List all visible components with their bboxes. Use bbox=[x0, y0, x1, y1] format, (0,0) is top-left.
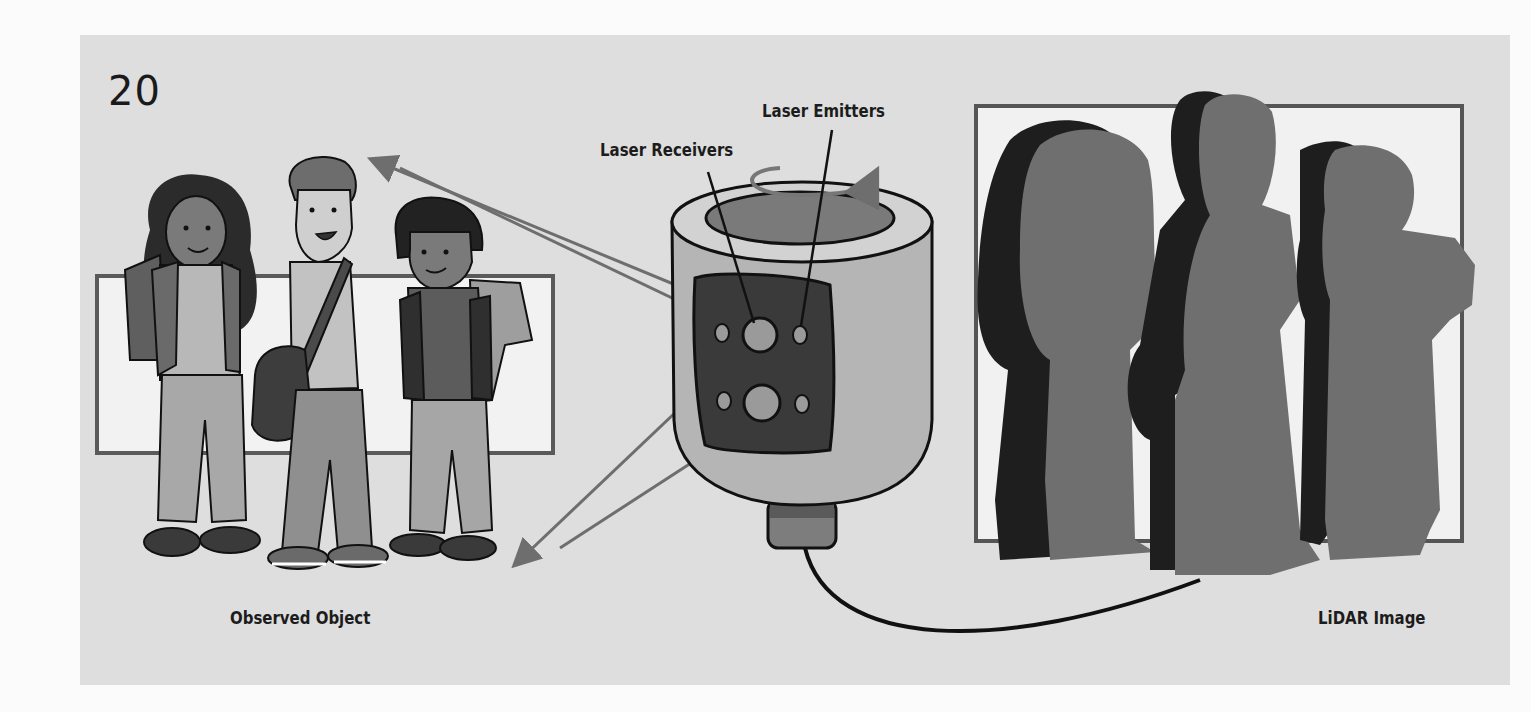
emitter-1 bbox=[715, 324, 729, 342]
sensor-cable bbox=[805, 548, 1200, 631]
emitter-3 bbox=[717, 392, 731, 410]
receiver-lower bbox=[744, 385, 780, 421]
observed-object-group bbox=[97, 157, 553, 569]
label-lidar-image: LiDAR Image bbox=[1318, 608, 1425, 628]
label-observed-object: Observed Object bbox=[230, 608, 370, 628]
receiver-upper bbox=[743, 318, 777, 352]
emitter-2 bbox=[793, 326, 807, 344]
label-laser-emitters: Laser Emitters bbox=[762, 101, 885, 121]
label-laser-receivers: Laser Receivers bbox=[600, 140, 733, 160]
lidar-image-group bbox=[976, 91, 1475, 575]
emitter-4 bbox=[795, 395, 809, 413]
